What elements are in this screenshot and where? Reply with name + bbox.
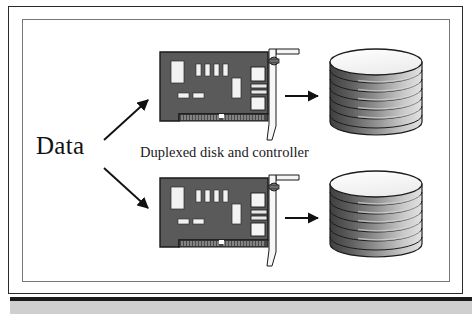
upper-controller-card bbox=[160, 49, 299, 140]
lower-disk-stack bbox=[330, 171, 422, 257]
figure-caption: Duplexed disk and controller bbox=[140, 144, 309, 161]
upper-disk-stack bbox=[330, 49, 422, 135]
page-bottom-strip bbox=[10, 301, 472, 314]
diagram-stage: Data Duplexed disk and controller bbox=[0, 0, 476, 314]
arrow-data-to-lower-controller bbox=[104, 168, 148, 208]
branch-lower bbox=[104, 168, 422, 266]
lower-controller-card bbox=[160, 175, 299, 266]
figure-root: Data Duplexed disk and controller bbox=[0, 0, 476, 314]
data-source-label: Data bbox=[36, 132, 84, 160]
arrow-data-to-upper-controller bbox=[104, 100, 148, 140]
branch-upper bbox=[104, 49, 422, 140]
